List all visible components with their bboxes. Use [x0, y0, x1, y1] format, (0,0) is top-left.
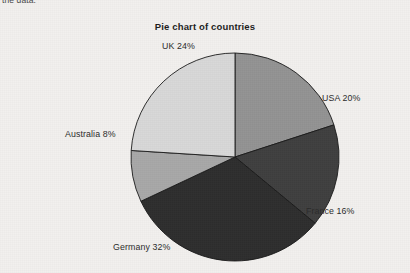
pie-label-uk: UK 24%: [162, 41, 195, 51]
pie-slice-uk: [131, 53, 235, 157]
pie-label-germany: Germany 32%: [113, 242, 170, 252]
pie-slice-group: [131, 53, 339, 261]
pie-label-australia: Australia 8%: [65, 129, 116, 139]
pie-chart: [0, 0, 410, 273]
pie-label-france: France 16%: [306, 206, 354, 216]
pie-label-usa: USA 20%: [322, 93, 360, 103]
